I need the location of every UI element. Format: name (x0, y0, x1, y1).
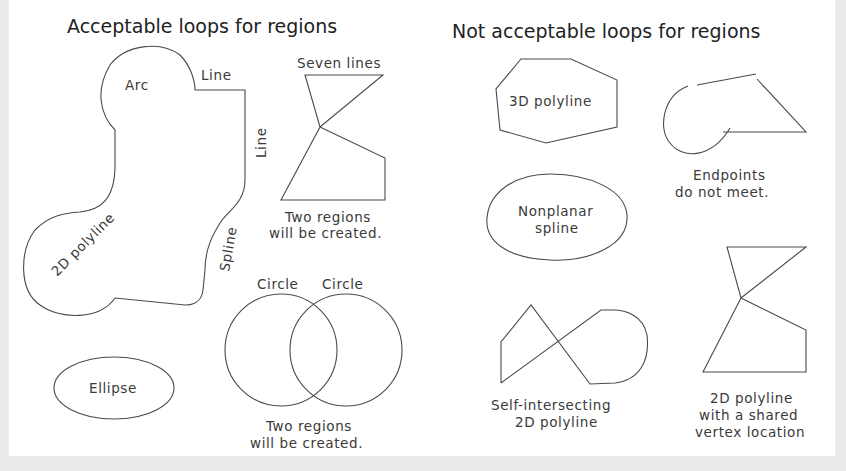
two-regions-label-1a: Two regions (284, 209, 371, 225)
line-right-label: Line (253, 127, 269, 158)
right-title: Not acceptable loops for regions (452, 20, 760, 42)
open-loop-shape (664, 74, 806, 154)
seven-lines-shape (281, 75, 385, 200)
regions-diagram: Acceptable loops for regions Not accepta… (0, 0, 846, 471)
circle-label-1: Circle (257, 276, 299, 292)
circle-label-2: Circle (322, 276, 364, 292)
spline-label: Spline (216, 225, 240, 272)
self-intersecting-shape (501, 305, 648, 384)
circle-left (225, 294, 337, 406)
shared-vertex-shape (703, 247, 806, 372)
endpoints-label-b: do not meet. (675, 184, 769, 200)
two-regions-label-1b: will be created. (269, 225, 382, 241)
endpoints-label-a: Endpoints (693, 167, 766, 183)
self-intersecting-label-b: 2D polyline (515, 414, 598, 430)
circle-right (290, 294, 402, 406)
nonplanar-label-a: Nonplanar (518, 203, 593, 219)
ellipse-label: Ellipse (89, 380, 137, 396)
arc-label: Arc (125, 77, 149, 93)
two-regions-label-2b: will be created. (250, 435, 363, 451)
two-regions-label-2a: Two regions (265, 418, 352, 434)
polyline-2d-label: 2D polyline (48, 209, 118, 279)
nonplanar-label-b: spline (535, 220, 579, 236)
line-top-label: Line (201, 67, 232, 83)
left-title: Acceptable loops for regions (67, 15, 337, 37)
shared-vertex-label-c: vertex location (695, 424, 805, 440)
shared-vertex-label-a: 2D polyline (710, 390, 793, 406)
polyline-3d-label: 3D polyline (509, 93, 592, 109)
self-intersecting-label-a: Self-intersecting (491, 397, 611, 413)
shared-vertex-label-b: with a shared (699, 407, 798, 423)
seven-lines-label: Seven lines (297, 55, 381, 71)
